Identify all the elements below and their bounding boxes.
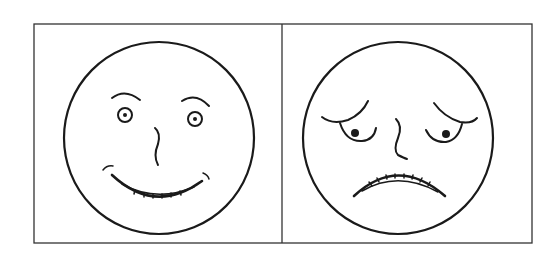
sad-left-pupil <box>351 129 359 137</box>
faces-diagram: Happy face Sad / worried face <box>0 0 560 263</box>
happy-left-pupil <box>123 113 127 117</box>
happy-right-pupil <box>193 117 197 121</box>
sad-right-pupil <box>442 130 450 138</box>
sad-face-icon <box>303 42 493 234</box>
happy-face-icon <box>64 42 254 234</box>
faces-svg <box>0 0 560 263</box>
